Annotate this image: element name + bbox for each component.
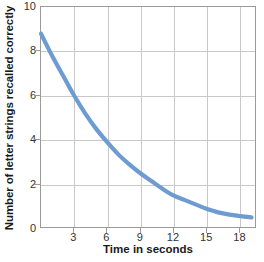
y-tick-label: 4 [18, 133, 36, 145]
y-tick-label: 10 [18, 0, 36, 12]
recall-curve-path [41, 34, 251, 218]
y-tick-label: 8 [18, 44, 36, 56]
x-tick-label: 18 [227, 231, 251, 243]
data-series-line [41, 7, 257, 229]
x-tick-label: 9 [128, 231, 152, 243]
x-tick-label: 3 [61, 231, 85, 243]
x-tick-label: 12 [161, 231, 185, 243]
x-tick-label: 6 [94, 231, 118, 243]
y-tick-label: 6 [18, 89, 36, 101]
x-tick-label: 15 [194, 231, 218, 243]
y-axis-title: Number of letter strings recalled correc… [0, 0, 18, 236]
plot-area [40, 6, 256, 228]
y-tick-label: 2 [18, 178, 36, 190]
y-tick-label: 0 [18, 222, 36, 234]
chart-figure: Number of letter strings recalled correc… [0, 0, 264, 262]
x-axis-title: Time in seconds [40, 243, 256, 255]
